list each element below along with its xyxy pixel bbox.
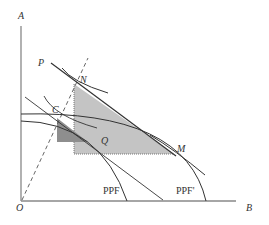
point-label-c: C bbox=[52, 104, 59, 115]
axis-label-a: A bbox=[17, 10, 25, 21]
point-label-p: P bbox=[37, 57, 44, 68]
ppf-prime-tangent-ext bbox=[150, 135, 205, 175]
ppf-prime-label: PPF' bbox=[176, 185, 195, 196]
ppf-label: PPF bbox=[103, 185, 120, 196]
point-label-q: Q bbox=[101, 135, 109, 146]
origin-label: O bbox=[16, 202, 23, 213]
ppf-diagram: A B O P N C Q M PPF PPF' bbox=[0, 0, 269, 225]
point-label-m: M bbox=[176, 143, 186, 154]
axis-label-b: B bbox=[246, 202, 252, 213]
point-label-n: N bbox=[79, 74, 88, 85]
